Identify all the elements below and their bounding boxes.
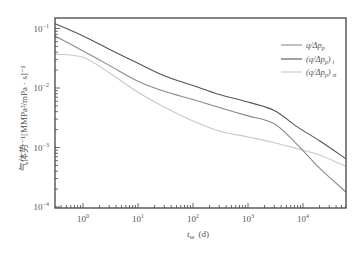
x-tick-labels: 100101102103104 xyxy=(77,213,309,224)
plot-frame xyxy=(55,18,346,208)
legend: q/Δpp(q/Δpp)i(q/Δpp)st xyxy=(281,40,337,78)
x-tick-label: 104 xyxy=(297,213,309,224)
y-tick-label: 10−4 xyxy=(34,201,49,212)
chart: 100101102103104 10−410−310−210−1 tse(d) … xyxy=(0,0,364,253)
legend-label: (q/Δpp)st xyxy=(306,67,337,78)
x-tick-label: 103 xyxy=(242,213,254,224)
y-tick-label: 10−3 xyxy=(34,142,49,153)
x-tick-label: 100 xyxy=(77,213,89,224)
x-axis-title: tse(d) xyxy=(187,229,209,240)
legend-label: (q/Δpp)i xyxy=(306,54,335,65)
legend-label: q/Δpp xyxy=(306,40,325,51)
series-line-1 xyxy=(55,24,346,159)
plot-lines xyxy=(55,24,346,192)
y-axis-title: 气体势⁻¹[MMPa²/mPa · s]⁻¹ xyxy=(18,65,29,170)
y-tick-labels: 10−410−310−210−1 xyxy=(34,23,49,213)
x-tick-label: 101 xyxy=(132,213,144,224)
y-tick-label: 10−2 xyxy=(34,82,49,93)
y-tick-label: 10−1 xyxy=(34,23,49,34)
series-line-0 xyxy=(55,36,346,192)
x-tick-label: 102 xyxy=(187,213,199,224)
axis-ticks xyxy=(55,29,346,209)
